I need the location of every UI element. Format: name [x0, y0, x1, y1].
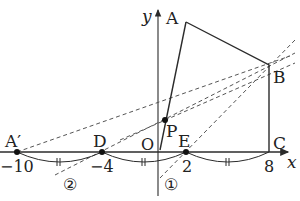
y-axis-label: y: [141, 6, 152, 26]
origin-label: O: [141, 135, 154, 154]
label-c: C: [273, 133, 286, 153]
tick-label-neg4: −4: [90, 157, 114, 176]
dashed-line-e-b-1: [160, 40, 295, 178]
label-d: D: [93, 131, 107, 151]
label-a: A: [165, 8, 179, 28]
tick-label-8: 8: [264, 157, 274, 176]
label-a-prime: A′: [4, 131, 21, 151]
label-p: P: [166, 121, 177, 141]
label-b: B: [273, 67, 286, 87]
tick-label-neg10: −10: [0, 157, 34, 176]
geometry-diagram: y x O A B C A′ D E P −10 −4 2 8 ① ②: [0, 0, 300, 201]
label-e: E: [178, 131, 190, 151]
tick-label-2: 2: [182, 157, 192, 176]
arc-e-c: [186, 152, 269, 162]
segment-a-b-c: [186, 22, 269, 152]
x-axis-label: x: [287, 152, 297, 172]
line-marker-1: ①: [164, 175, 178, 194]
line-marker-2: ②: [63, 175, 77, 194]
